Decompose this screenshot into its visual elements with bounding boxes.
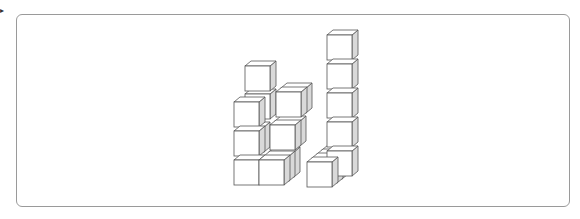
cube-top-face — [327, 117, 358, 122]
cube-top-face — [327, 30, 358, 35]
cube-top-face — [245, 61, 276, 66]
cube-front-face — [245, 66, 270, 91]
cube-front-face — [327, 122, 352, 147]
cube-front-face — [270, 125, 295, 150]
cube-top-face — [327, 59, 358, 64]
cube-front-face — [327, 35, 352, 60]
cube-front-face — [234, 131, 259, 156]
cube-front-face — [327, 64, 352, 89]
unit-cube — [276, 87, 307, 117]
cube-top-face — [327, 88, 358, 93]
cube-top-face — [234, 126, 265, 131]
cube-front-face — [234, 160, 259, 185]
unit-cube — [270, 120, 301, 150]
cube-top-face — [270, 120, 301, 125]
cube-top-face — [307, 157, 338, 162]
cube-top-face — [327, 146, 358, 151]
cube-front-face — [234, 102, 259, 127]
unit-cube — [234, 126, 265, 156]
cube-figure — [0, 0, 580, 219]
unit-cube — [327, 30, 358, 60]
cube-top-face — [259, 155, 290, 160]
cube-top-face — [276, 87, 307, 92]
cube-front-face — [327, 93, 352, 118]
cube-front-face — [307, 162, 332, 187]
cube-front-face — [276, 92, 301, 117]
unit-cube — [245, 61, 276, 91]
unit-cube — [327, 117, 358, 147]
unit-cube — [234, 97, 265, 127]
cube-top-face — [234, 97, 265, 102]
unit-cube — [307, 157, 338, 187]
unit-cube — [259, 155, 290, 185]
cube-front-face — [259, 160, 284, 185]
unit-cube — [327, 59, 358, 89]
unit-cube — [327, 88, 358, 118]
